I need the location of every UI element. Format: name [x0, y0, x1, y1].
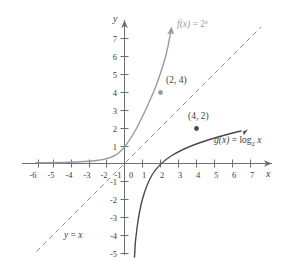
point-label-2-4: (2, 4) — [166, 75, 187, 86]
y-tick-labels: 7 6 5 4 3 2 1 -1 -2 -3 -4 -5 — [110, 34, 118, 259]
x-tick-label--2: -2 — [100, 170, 107, 180]
point-marker-2-4 — [158, 90, 163, 95]
identity-eq: = — [68, 230, 78, 240]
exponential-curve — [36, 33, 171, 163]
identity-line-label: y = x — [63, 230, 83, 240]
y-tick-label-7: 7 — [113, 34, 117, 44]
logarithm-function-label: g(x) = log2 x — [214, 135, 262, 147]
y-tick-label--3: -3 — [110, 213, 117, 223]
y-tick-label-2: 2 — [113, 124, 117, 134]
point-label-4-2: (4, 2) — [188, 111, 209, 122]
x-tick-labels: -6 -5 -4 -3 -2 -1 0 1 2 3 4 5 6 7 — [29, 170, 254, 180]
plot-canvas: -6 -5 -4 -3 -2 -1 0 1 2 3 4 5 6 7 7 6 5 … — [0, 0, 292, 263]
x-tick-label-4: 4 — [196, 170, 201, 180]
x-tick-label-3: 3 — [178, 170, 182, 180]
exponential-fn-arg: (x) — [180, 19, 191, 30]
logarithm-fn-arg: (x) — [219, 135, 230, 146]
y-tick-label-4: 4 — [113, 88, 118, 98]
x-tick-label-2: 2 — [160, 170, 164, 180]
point-marker-4-2 — [194, 126, 199, 131]
logarithm-fn-eq: = log — [229, 135, 251, 145]
x-axis-label: x — [265, 168, 271, 179]
y-tick-label--2: -2 — [110, 195, 117, 205]
logarithm-curve — [135, 131, 242, 257]
x-tick-label-5: 5 — [214, 170, 218, 180]
x-tick-label-7: 7 — [250, 170, 254, 180]
x-tick-label-6: 6 — [232, 170, 236, 180]
identity-rhs: x — [77, 230, 83, 240]
y-tick-label-3: 3 — [113, 106, 117, 116]
y-tick-label--1: -1 — [110, 177, 117, 187]
x-tick-label-0: 0 — [129, 170, 133, 180]
exponential-fn-eq: = 2 — [190, 19, 205, 29]
y-tick-label--4: -4 — [110, 231, 118, 241]
logarithm-fn-var: x — [255, 135, 262, 145]
y-tick-label-1: 1 — [113, 142, 117, 152]
x-tick-label--4: -4 — [65, 170, 73, 180]
exponential-function-label: f(x) = 2x — [177, 18, 208, 31]
x-tick-label--6: -6 — [29, 170, 36, 180]
y-axis-label: y — [112, 13, 118, 24]
y-tick-label-5: 5 — [113, 70, 117, 80]
graph-figure: -6 -5 -4 -3 -2 -1 0 1 2 3 4 5 6 7 7 6 5 … — [0, 0, 292, 263]
y-tick-label--5: -5 — [110, 249, 117, 259]
y-tick-label-6: 6 — [113, 52, 117, 62]
exponential-fn-exponent: x — [204, 18, 208, 25]
x-tick-label--5: -5 — [47, 170, 54, 180]
x-tick-label--3: -3 — [83, 170, 90, 180]
x-tick-label-1: 1 — [142, 170, 146, 180]
